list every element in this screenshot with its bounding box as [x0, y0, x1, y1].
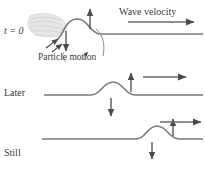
hand-shake-arrow-2 — [52, 44, 62, 52]
label-t-zero: t = 0 — [4, 26, 24, 37]
wave-pulse-figure: t = 0 Wave velocity Particle motion Late… — [0, 0, 205, 176]
label-later: Later — [4, 88, 25, 99]
hand-shake-arrow-1 — [46, 39, 58, 48]
rope-line-later — [44, 82, 203, 95]
label-particle-motion: Particle motion — [38, 53, 96, 63]
label-still-later: Still later — [4, 127, 22, 176]
wave-diagram-svg — [0, 0, 205, 176]
label-still-line1: Still — [4, 148, 22, 159]
label-wave-velocity: Wave velocity — [119, 7, 176, 18]
panel-still-later — [42, 119, 203, 159]
panel-later — [44, 73, 203, 116]
rope-line-still-later — [42, 126, 203, 139]
